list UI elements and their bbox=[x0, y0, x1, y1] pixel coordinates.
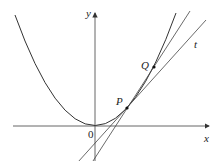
parabola-curve bbox=[15, 13, 176, 126]
secant-line-pq bbox=[93, 11, 190, 161]
tangent-secant-diagram: y x 0 P Q t bbox=[0, 0, 214, 161]
point-q-dot bbox=[152, 65, 155, 68]
point-q-label: Q bbox=[141, 60, 149, 71]
point-p-label: P bbox=[116, 96, 123, 107]
tangent-line-t bbox=[78, 20, 206, 161]
origin-label: 0 bbox=[88, 129, 94, 140]
tangent-label: t bbox=[194, 39, 197, 50]
point-p-dot bbox=[125, 106, 128, 109]
y-axis-label: y bbox=[86, 8, 91, 19]
x-axis-label: x bbox=[204, 133, 209, 144]
diagram-canvas bbox=[0, 0, 214, 161]
